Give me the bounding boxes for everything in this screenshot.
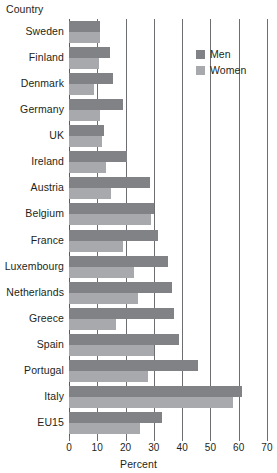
bar-men: [69, 125, 104, 136]
x-tick-label: 50: [197, 442, 223, 453]
bar-men: [69, 99, 123, 110]
bar-women: [69, 397, 233, 408]
category-label: Greece: [0, 312, 64, 324]
bar-women: [69, 58, 99, 69]
bar-women: [69, 371, 148, 382]
bar-men: [69, 308, 174, 319]
bar-women: [69, 319, 116, 330]
bar-series-container: [69, 19, 267, 436]
bar-group: [69, 360, 267, 382]
category-label: Italy: [0, 390, 64, 402]
category-label: Spain: [0, 338, 64, 350]
bar-men: [69, 73, 113, 84]
bar-group: [69, 203, 267, 225]
x-tick-mark: [154, 436, 155, 441]
plot-area: [69, 19, 267, 436]
x-tick-mark: [267, 436, 268, 441]
bar-women: [69, 214, 151, 225]
bar-group: [69, 177, 267, 199]
legend-swatch-icon: [196, 66, 205, 75]
bar-group: [69, 386, 267, 408]
category-label: Portugal: [0, 364, 64, 376]
bar-group: [69, 21, 267, 43]
x-tick-label: 20: [113, 442, 139, 453]
bar-women: [69, 32, 100, 43]
bar-men: [69, 203, 154, 214]
category-label: Ireland: [0, 155, 64, 167]
bar-women: [69, 345, 154, 356]
bar-group: [69, 99, 267, 121]
x-tick-label: 40: [169, 442, 195, 453]
bar-women: [69, 136, 102, 147]
bar-men: [69, 360, 198, 371]
category-label: Netherlands: [0, 286, 64, 298]
category-label: UK: [0, 129, 64, 141]
x-axis-title: Percent: [0, 458, 277, 470]
x-tick-label: 10: [84, 442, 110, 453]
x-tick-mark: [69, 436, 70, 441]
x-tick-label: 30: [141, 442, 167, 453]
x-tick-mark: [97, 436, 98, 441]
bar-women: [69, 293, 138, 304]
bar-group: [69, 412, 267, 434]
x-tick-mark: [210, 436, 211, 441]
bar-men: [69, 256, 168, 267]
gridline-70: [267, 19, 268, 436]
legend-item-women: Women: [196, 62, 247, 78]
category-axis-labels: SwedenFinlandDenmarkGermanyUKIrelandAust…: [0, 19, 64, 436]
category-label: EU15: [0, 416, 64, 428]
legend-item-men: Men: [196, 46, 247, 62]
grouped-bar-chart: Country SwedenFinlandDenmarkGermanyUKIre…: [0, 0, 277, 473]
category-label: Sweden: [0, 25, 64, 37]
bar-men: [69, 151, 127, 162]
x-tick-mark: [126, 436, 127, 441]
bar-men: [69, 47, 110, 58]
bar-women: [69, 423, 140, 434]
x-tick-label: 60: [226, 442, 252, 453]
category-label: Austria: [0, 181, 64, 193]
bar-men: [69, 177, 150, 188]
bar-women: [69, 162, 106, 173]
bar-men: [69, 21, 100, 32]
legend-swatch-icon: [196, 50, 205, 59]
bar-group: [69, 151, 267, 173]
x-tick-label: 70: [254, 442, 277, 453]
bar-group: [69, 282, 267, 304]
bar-women: [69, 110, 100, 121]
bar-women: [69, 188, 111, 199]
bar-men: [69, 386, 242, 397]
bar-men: [69, 230, 158, 241]
bar-women: [69, 84, 94, 95]
y-axis-title: Country: [6, 3, 43, 15]
bar-group: [69, 256, 267, 278]
x-tick-mark: [239, 436, 240, 441]
x-tick-label: 0: [56, 442, 82, 453]
bar-group: [69, 308, 267, 330]
legend-label: Women: [210, 64, 247, 76]
category-label: Germany: [0, 103, 64, 115]
category-label: Finland: [0, 51, 64, 63]
chart-legend: MenWomen: [196, 46, 247, 78]
bar-men: [69, 412, 162, 423]
category-label: Belgium: [0, 207, 64, 219]
category-label: France: [0, 234, 64, 246]
category-label: Luxembourg: [0, 260, 64, 272]
bar-women: [69, 267, 134, 278]
category-label: Denmark: [0, 77, 64, 89]
x-tick-mark: [182, 436, 183, 441]
legend-label: Men: [210, 48, 231, 60]
bar-women: [69, 241, 123, 252]
bar-group: [69, 334, 267, 356]
bar-group: [69, 230, 267, 252]
bar-group: [69, 125, 267, 147]
bar-men: [69, 334, 179, 345]
bar-men: [69, 282, 172, 293]
